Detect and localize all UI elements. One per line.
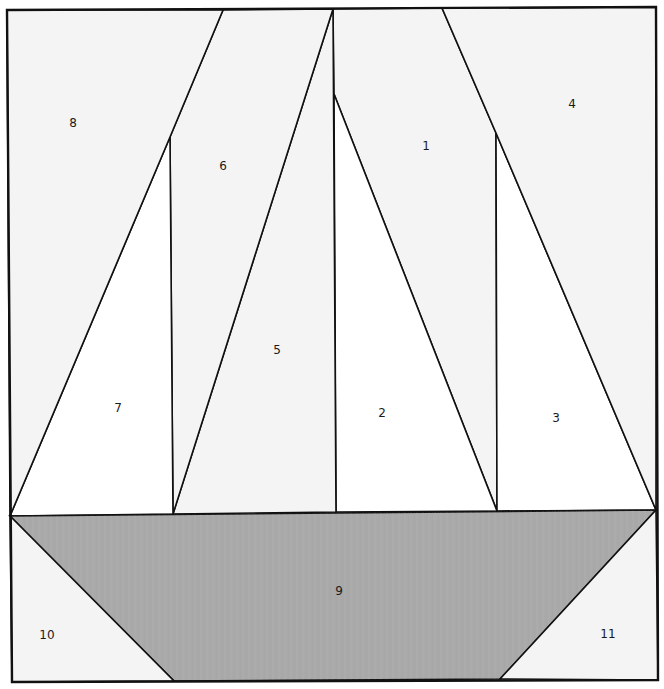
piece-number-label: 4 [568, 97, 576, 111]
piece-number-label: 2 [378, 406, 386, 420]
piece-number-label: 10 [39, 628, 54, 642]
sailboat-pattern-diagram: 1234567891011 [0, 0, 664, 689]
piece-number-label: 9 [335, 584, 343, 598]
piece-number-label: 8 [69, 116, 77, 130]
piece-number-label: 7 [114, 401, 122, 415]
piece-number-label: 3 [552, 411, 560, 425]
piece-number-label: 6 [219, 159, 227, 173]
piece-number-label: 11 [600, 627, 615, 641]
piece-number-label: 1 [422, 139, 430, 153]
piece-number-label: 5 [273, 343, 281, 357]
pattern-pieces [7, 7, 658, 682]
